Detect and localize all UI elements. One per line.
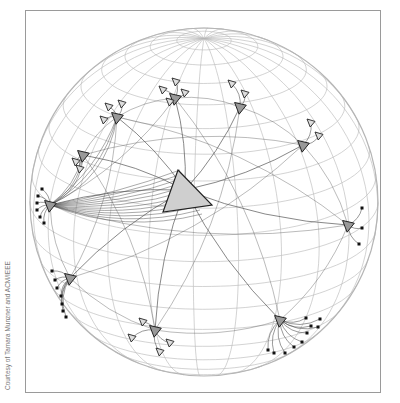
leaf-node[interactable] bbox=[310, 325, 313, 328]
edge bbox=[50, 205, 348, 234]
grid-line bbox=[125, 36, 283, 83]
edge bbox=[155, 107, 240, 330]
leaf-node[interactable] bbox=[358, 243, 361, 246]
leaf-node[interactable] bbox=[56, 287, 59, 290]
grid-line bbox=[148, 366, 263, 375]
leaf-node[interactable] bbox=[305, 317, 308, 320]
edge bbox=[175, 97, 240, 107]
leaf-node[interactable] bbox=[317, 326, 320, 329]
leaf-node[interactable] bbox=[105, 103, 113, 111]
leaf-node[interactable] bbox=[172, 78, 180, 86]
grid-line bbox=[204, 39, 319, 368]
leaf-node[interactable] bbox=[54, 279, 57, 282]
root-node[interactable] bbox=[163, 170, 212, 212]
leaf-node[interactable] bbox=[37, 195, 40, 198]
grid-line bbox=[204, 38, 356, 117]
edge bbox=[83, 136, 303, 155]
leaf-node[interactable] bbox=[65, 316, 68, 319]
edge bbox=[117, 98, 175, 117]
leaf-node[interactable] bbox=[36, 202, 39, 205]
leaf-node[interactable] bbox=[118, 100, 126, 108]
leaf-node[interactable] bbox=[60, 295, 63, 298]
grid-line bbox=[40, 259, 368, 309]
leaf-node[interactable] bbox=[284, 352, 287, 355]
leaf-node[interactable] bbox=[306, 332, 309, 335]
leaf-node[interactable] bbox=[267, 349, 270, 352]
leaf-node[interactable] bbox=[156, 348, 164, 356]
leaf-node[interactable] bbox=[39, 216, 42, 219]
leaf-node[interactable] bbox=[51, 270, 54, 273]
leaf-node[interactable] bbox=[36, 209, 39, 212]
leaf-node[interactable] bbox=[273, 352, 276, 355]
leaf-node[interactable] bbox=[41, 188, 44, 191]
edge bbox=[83, 117, 117, 155]
grid-line bbox=[32, 230, 375, 286]
grid-line bbox=[76, 38, 204, 85]
leaf-node[interactable] bbox=[361, 227, 364, 230]
grid-line bbox=[33, 39, 205, 173]
edge bbox=[303, 145, 348, 225]
leaf-node[interactable] bbox=[62, 310, 65, 313]
grid-line bbox=[30, 201, 378, 261]
grid-line bbox=[49, 117, 359, 181]
grid-line bbox=[177, 31, 231, 50]
edge bbox=[83, 155, 155, 330]
edge bbox=[155, 320, 280, 333]
leaf-node[interactable] bbox=[301, 341, 304, 344]
edge-root-lower-right-cluster bbox=[185, 190, 280, 320]
leaf-node[interactable] bbox=[166, 339, 174, 347]
leaf-node[interactable] bbox=[361, 207, 364, 210]
leaf-node[interactable] bbox=[159, 86, 167, 94]
leaf-node[interactable] bbox=[43, 222, 46, 225]
edge-root-upper-right-cluster bbox=[185, 145, 303, 190]
edge-root-left-cluster bbox=[50, 189, 185, 205]
edge bbox=[240, 107, 303, 145]
leaf-node[interactable] bbox=[293, 346, 296, 349]
edge-root-right-cluster bbox=[185, 190, 348, 225]
hyperbolic-graph-visualization bbox=[0, 0, 400, 403]
leaf-node[interactable] bbox=[61, 303, 64, 306]
grid-line bbox=[150, 28, 258, 65]
edge bbox=[70, 145, 303, 278]
edge-leaf bbox=[280, 320, 302, 342]
grid-line bbox=[204, 39, 282, 374]
leaf-node[interactable] bbox=[319, 318, 322, 321]
edge bbox=[117, 117, 348, 225]
